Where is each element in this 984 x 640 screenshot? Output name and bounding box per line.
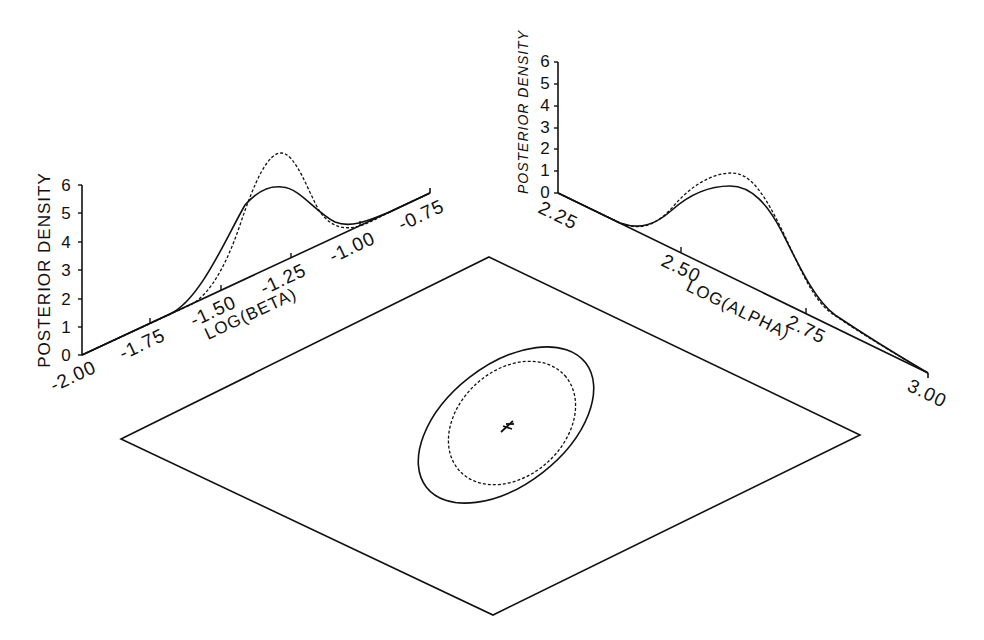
alpha-y-tick-2: 2 [540, 139, 549, 158]
beta-y-tick-0: 0 [61, 346, 70, 365]
beta-x-tick-label: -2.00 [47, 356, 100, 395]
beta-y-tick-6: 6 [61, 176, 70, 195]
alpha-curve-solid [558, 186, 928, 373]
beta-y-tick-3: 3 [61, 261, 70, 280]
beta-x-tick-labels: -2.00 -1.75 -1.50 -1.25 -1.00 -0.75 [47, 195, 448, 395]
beta-x-tick-label: -1.75 [116, 324, 169, 363]
alpha-y-tick-3: 3 [540, 118, 549, 137]
alpha-x-tick-label: 3.00 [904, 375, 950, 412]
alpha-x-tick-label: 2.25 [535, 197, 581, 234]
alpha-x-axis-title: LOG(ALPHA) [683, 277, 793, 344]
mode-marker-icon [501, 421, 514, 432]
beta-y-tick-4: 4 [61, 233, 70, 252]
beta-curve-solid [82, 187, 430, 355]
alpha-curve-dashed [558, 173, 928, 373]
marginal-beta-panel: 0 1 2 3 4 5 6 POSTERIOR DENSITY -2.00 -1… [35, 153, 447, 396]
alpha-y-tick-5: 5 [540, 74, 549, 93]
posterior-3d-plot: 0 1 2 3 4 5 6 POSTERIOR DENSITY -2.00 -1… [0, 0, 984, 640]
beta-x-tick-label: -0.75 [395, 195, 448, 234]
alpha-y-axis-title: POSTERIOR DENSITY [515, 29, 531, 194]
beta-y-tick-labels: 0 1 2 3 4 5 6 [61, 176, 70, 365]
beta-y-tick-2: 2 [61, 290, 70, 309]
beta-x-tick-label: -1.00 [326, 227, 379, 266]
alpha-y-tick-1: 1 [540, 161, 549, 180]
beta-y-axis-title: POSTERIOR DENSITY [35, 172, 54, 368]
marginal-alpha-panel: 0 1 2 3 4 5 6 POSTERIOR DENSITY 2.25 2.5… [515, 29, 950, 411]
beta-y-tick-1: 1 [61, 318, 70, 337]
beta-curve-dashed [82, 153, 430, 355]
alpha-y-tick-4: 4 [540, 96, 549, 115]
alpha-y-tick-labels: 0 1 2 3 4 5 6 [540, 52, 549, 202]
alpha-y-tick-6: 6 [540, 52, 549, 71]
beta-y-tick-5: 5 [61, 204, 70, 223]
contour-solid [389, 316, 622, 535]
